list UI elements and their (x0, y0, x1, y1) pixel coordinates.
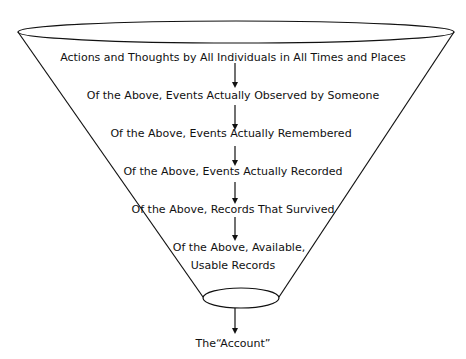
stage-6-label-line1: Of the Above, Available, (6, 241, 466, 254)
stage-6-label-line2: Usable Records (0, 259, 466, 272)
funnel-bottom-opening (203, 288, 279, 308)
stage-2-label: Of the Above, Events Actually Observed b… (0, 89, 466, 102)
funnel-top-rim (18, 21, 454, 43)
stage-3-label: Of the Above, Events Actually Remembered (0, 127, 464, 140)
stage-4-label: Of the Above, Events Actually Recorded (0, 165, 466, 178)
stage-1-label: Actions and Thoughts by All Individuals … (0, 51, 466, 64)
output-label: The“Account” (0, 337, 466, 350)
stage-5-label: Of the Above, Records That Survived (0, 203, 466, 216)
